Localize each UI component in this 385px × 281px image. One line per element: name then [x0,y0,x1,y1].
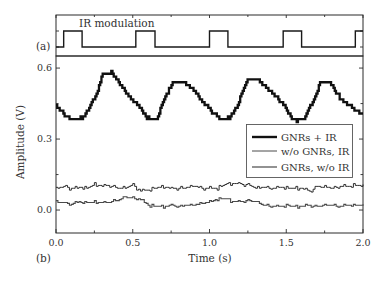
series-wo-gnrs-ir [56,183,363,192]
y-axis-title: Amplitude (V) [14,105,26,180]
figure: 0.00.51.01.52.00.00.30.6 (a) (b) IR modu… [0,0,385,281]
x-tick-label: 0.5 [125,237,140,248]
ir-modulation-trace [56,31,363,47]
series-gnrs-ir [56,71,363,122]
y-tick-label: 0.3 [37,133,52,144]
x-tick-label: 1.5 [279,237,294,248]
legend-label-wo-gnrs-ir: w/o GNRs, IR [281,146,350,157]
x-axis-title: Time (s) [188,252,231,264]
panel-b-label: (b) [36,252,51,264]
legend-label-gnrs-wo-ir: GNRs, w/o IR [281,162,350,173]
panel-a-label: (a) [36,40,50,52]
x-tick-label: 0.0 [48,237,63,248]
x-tick-label: 2.0 [355,237,370,248]
legend-label-gnrs-ir: GNRs + IR [281,132,337,143]
series-gnrs-wo-ir [56,197,363,208]
chart-canvas: 0.00.51.01.52.00.00.30.6 (a) (b) IR modu… [0,0,385,281]
y-tick-label: 0.0 [37,204,52,215]
ir-modulation-label: IR modulation [79,17,155,29]
series-layer [56,31,363,208]
y-tick-label: 0.6 [37,62,52,73]
legend: GNRs + IR w/o GNRs, IR GNRs, w/o IR [247,125,353,178]
x-tick-label: 1.0 [202,237,217,248]
